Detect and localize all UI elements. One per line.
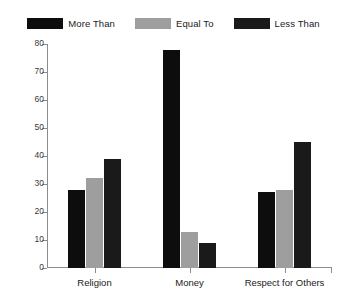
legend-label: Less Than — [275, 18, 320, 29]
bar[interactable] — [199, 243, 216, 268]
legend-label: Equal To — [176, 18, 214, 29]
bar-group: Money — [163, 44, 216, 268]
y-tick-label: 80 — [35, 38, 44, 49]
legend-swatch-icon — [135, 18, 171, 29]
x-tick-mark — [331, 268, 332, 273]
bar-group: Religion — [68, 44, 121, 268]
x-axis-category-label: Respect for Others — [245, 277, 325, 289]
legend-entry[interactable]: Less Than — [234, 18, 320, 29]
bar[interactable] — [276, 190, 293, 268]
bar[interactable] — [104, 159, 121, 268]
bar-group: Respect for Others — [258, 44, 311, 268]
x-tick-mark — [190, 268, 191, 273]
bar[interactable] — [294, 142, 311, 268]
bar[interactable] — [68, 190, 85, 268]
x-tick-mark — [95, 268, 96, 273]
x-axis-category-label: Religion — [77, 277, 111, 289]
y-tick-label: 60 — [35, 94, 44, 105]
bar[interactable] — [181, 232, 198, 268]
legend-entry[interactable]: Equal To — [135, 18, 214, 29]
legend-swatch-icon — [234, 18, 270, 29]
y-tick-label: 50 — [35, 122, 44, 133]
y-tick-label: 40 — [35, 150, 44, 161]
y-axis-line — [47, 44, 48, 268]
legend-entry[interactable]: More Than — [27, 18, 115, 29]
legend-label: More Than — [68, 18, 115, 29]
y-tick-label: 20 — [35, 206, 44, 217]
legend-swatch-icon — [27, 18, 63, 29]
y-tick-label: 70 — [35, 66, 44, 77]
bar[interactable] — [258, 192, 275, 268]
x-axis-category-label: Money — [175, 277, 204, 289]
x-tick-mark — [285, 268, 286, 273]
bar-chart: More ThanEqual ToLess Than 0102030405060… — [0, 0, 347, 301]
plot-area: 01020304050607080 ReligionMoneyRespect f… — [47, 44, 332, 268]
y-tick-label: 30 — [35, 178, 44, 189]
y-tick-label: 0 — [39, 262, 44, 273]
bar[interactable] — [86, 178, 103, 268]
chart-legend: More ThanEqual ToLess Than — [0, 18, 347, 29]
bar[interactable] — [163, 50, 180, 268]
y-tick-label: 10 — [35, 234, 44, 245]
